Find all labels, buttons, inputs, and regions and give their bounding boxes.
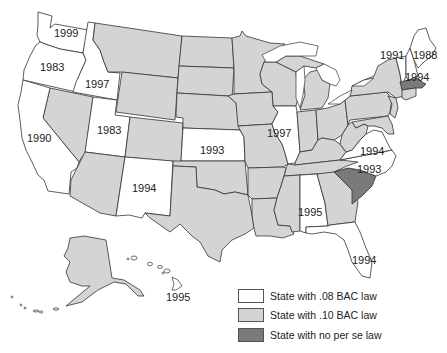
aleutian-islands [11,296,59,313]
label-north-carolina: 1993 [357,163,381,175]
legend-swatch-light-gray [238,308,264,322]
legend-item-10-bac: State with .10 BAC law [238,306,381,326]
label-california: 1990 [27,132,51,144]
label-new-hampshire: 1994 [405,71,429,83]
label-washington: 1999 [54,27,78,39]
legend-item-no-per-se: State with no per se law [238,325,381,345]
state-alaska [64,236,144,306]
label-hawaii: 1995 [166,291,190,303]
state-new-york [350,58,404,98]
legend-label: State with .08 BAC law [270,290,377,302]
state-colorado [125,117,183,162]
label-kansas: 1993 [200,144,224,156]
label-idaho: 1997 [85,78,109,90]
map-legend: State with .08 BAC law State with .10 BA… [238,286,381,345]
label-maine: 1988 [413,49,437,61]
label-virginia: 1994 [360,145,384,157]
state-florida [306,222,372,278]
label-alabama: 1995 [298,206,322,218]
state-wyoming [116,72,178,120]
state-hawaii [127,256,182,290]
legend-swatch-white [238,289,264,303]
label-oregon: 1983 [40,61,64,73]
label-florida: 1994 [352,254,376,266]
label-new-mexico: 1994 [132,182,156,194]
label-vermont: 1991 [380,49,404,61]
label-illinois: 1997 [267,127,291,139]
state-connecticut [402,88,416,100]
legend-label: State with .10 BAC law [270,309,377,321]
legend-item-08-bac: State with .08 BAC law [238,286,381,306]
state-north-dakota [179,36,234,68]
legend-label: State with no per se law [270,329,381,341]
label-utah: 1983 [97,124,121,136]
legend-swatch-dark-gray [238,328,264,342]
